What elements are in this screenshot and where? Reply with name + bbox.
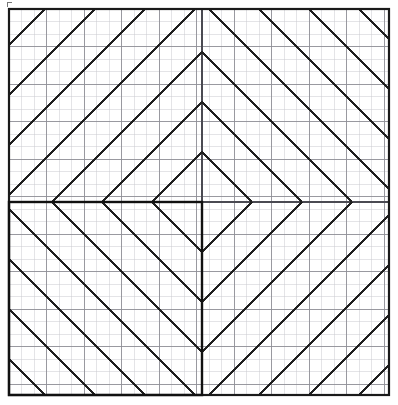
hatch-top-left	[152, 152, 202, 202]
hatch-top-right	[259, 9, 389, 139]
corner-tick-mark	[7, 2, 12, 7]
figure-container	[0, 0, 398, 405]
hatch-bottom-left	[9, 309, 95, 395]
hatch-top-left	[52, 52, 202, 202]
grid-pattern-figure	[0, 0, 398, 405]
hatch-bottom-right	[259, 265, 389, 395]
bold-rectangle	[9, 202, 202, 395]
hatch-bottom-right	[359, 365, 389, 395]
hatch-bottom-right	[209, 215, 389, 395]
hatch-top-right	[309, 9, 389, 89]
hatch-top-right	[359, 9, 389, 39]
hatch-bottom-left	[9, 259, 145, 395]
hatch-bottom-right	[202, 202, 252, 252]
hatch-top-left	[9, 9, 195, 195]
bold-quadrant-rect	[9, 202, 202, 395]
hatch-bottom-right	[202, 202, 352, 352]
hatch-bottom-left	[152, 202, 202, 252]
hatch-bottom-left	[52, 202, 202, 352]
hatch-top-left	[9, 9, 95, 95]
hatch-bottom-left	[102, 202, 202, 302]
hatch-bottom-right	[309, 315, 389, 395]
hatch-top-left	[9, 9, 45, 45]
hatch-bottom-left	[9, 359, 45, 395]
hatch-top-right	[202, 52, 352, 202]
hatch-bottom-left	[9, 209, 195, 395]
hatch-bottom-right	[202, 202, 302, 302]
hatch-top-left	[102, 102, 202, 202]
hatch-top-left	[9, 9, 145, 145]
hatch-top-right	[209, 9, 389, 189]
hatch-top-right	[202, 102, 302, 202]
hatch-top-right	[202, 152, 252, 202]
